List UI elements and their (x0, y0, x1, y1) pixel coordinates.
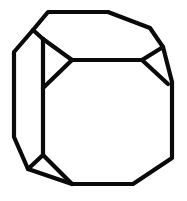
bottom-triangle-left-edge (28, 155, 43, 169)
right-triangle-lower-edge (142, 60, 168, 84)
figure-canvas (0, 0, 187, 201)
right-triangle-upper-edge (142, 47, 163, 60)
left-triangle-lower-edge (43, 60, 72, 88)
crystal-diagram (0, 0, 187, 201)
left-triangle-upper-edge (43, 39, 72, 60)
